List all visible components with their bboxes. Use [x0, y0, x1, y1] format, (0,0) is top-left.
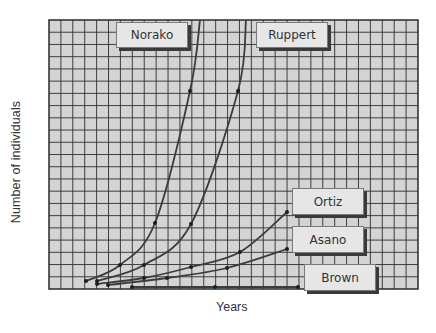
- data-point: [189, 222, 193, 226]
- series-label-norako: Norako: [116, 22, 188, 48]
- data-point: [118, 263, 122, 267]
- data-point: [236, 89, 240, 93]
- data-point: [153, 221, 157, 225]
- data-point: [95, 282, 99, 286]
- data-point: [165, 276, 169, 280]
- data-point: [213, 285, 217, 289]
- data-point: [84, 279, 88, 283]
- x-axis-label: Years: [216, 300, 248, 314]
- data-point: [142, 263, 146, 267]
- data-point: [285, 247, 289, 251]
- series-label-ortiz: Ortiz: [292, 188, 364, 215]
- data-point: [296, 285, 300, 289]
- data-point: [189, 265, 193, 269]
- data-point: [225, 266, 229, 270]
- data-point: [142, 276, 146, 280]
- data-point: [188, 89, 192, 93]
- series-label-brown: Brown: [304, 264, 376, 291]
- data-point: [106, 283, 110, 287]
- y-axis-label: Number of individuals: [9, 92, 23, 232]
- series-label-asano: Asano: [292, 226, 364, 253]
- data-point: [130, 285, 134, 289]
- series-label-ruppert: Ruppert: [256, 22, 328, 48]
- data-point: [285, 210, 289, 214]
- data-point: [238, 250, 242, 254]
